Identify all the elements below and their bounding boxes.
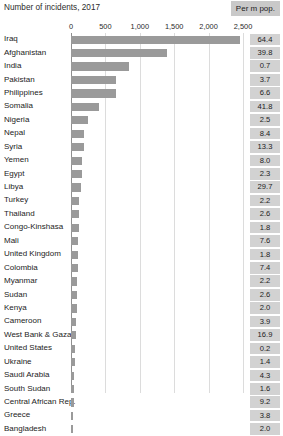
per-million-value: 8.4 [250, 128, 280, 140]
axis-tick-label: 1,000 [131, 22, 150, 31]
bar-track [71, 116, 243, 124]
incidents-bar [71, 197, 79, 205]
bar-track [71, 318, 243, 326]
table-row: Sudan2.6 [0, 288, 283, 301]
bar-track [71, 183, 243, 191]
table-row: Yemen8.0 [0, 154, 283, 167]
incidents-bar [71, 385, 74, 393]
bar-track [71, 143, 243, 151]
table-row: Afghanistan39.8 [0, 46, 283, 59]
bar-track [71, 170, 243, 178]
country-label: India [4, 61, 21, 71]
incidents-bar [71, 358, 75, 366]
per-million-value: 7.4 [250, 262, 280, 274]
incidents-bar [71, 103, 99, 111]
bar-track [71, 62, 243, 70]
table-row: Mali7.6 [0, 235, 283, 248]
bar-track [71, 251, 243, 259]
country-label: Central African Rep. [4, 397, 76, 407]
per-million-value: 0.7 [250, 60, 280, 72]
table-row: West Bank & Gaza16.9 [0, 329, 283, 342]
table-row: United Kingdom1.8 [0, 248, 283, 261]
bar-rows: Iraq64.4Afghanistan39.8India0.7Pakistan3… [0, 33, 283, 436]
axis-tick-label: 500 [99, 22, 111, 31]
axis-tick-label: 1,500 [165, 22, 184, 31]
country-label: Kenya [4, 303, 27, 313]
table-row: Thailand2.6 [0, 208, 283, 221]
incidents-bar [71, 49, 167, 57]
bar-track [71, 304, 243, 312]
table-row: Ukraine1.4 [0, 356, 283, 369]
bar-track [71, 331, 243, 339]
bar-track [71, 89, 243, 97]
country-label: Thailand [4, 209, 35, 219]
per-million-value: 2.0 [250, 302, 280, 314]
country-label: Ukraine [4, 357, 32, 367]
per-million-value: 2.5 [250, 114, 280, 126]
table-row: Philippines6.6 [0, 87, 283, 100]
incidents-bar [71, 412, 73, 420]
bar-track [71, 412, 243, 420]
bar-track [71, 157, 243, 165]
country-label: Yemen [4, 155, 29, 165]
table-row: Libya29.7 [0, 181, 283, 194]
bar-track [71, 398, 243, 406]
bar-track [71, 210, 243, 218]
incidents-bar [71, 224, 79, 232]
per-million-value: 16.9 [250, 329, 280, 341]
country-label: United States [4, 343, 52, 353]
per-million-value: 2.2 [250, 195, 280, 207]
bar-track [71, 385, 243, 393]
table-row: Somalia41.8 [0, 100, 283, 113]
per-million-value: 39.8 [250, 47, 280, 59]
incidents-bar [71, 345, 75, 353]
country-label: Greece [4, 410, 30, 420]
table-row: Colombia7.4 [0, 261, 283, 274]
per-million-value: 1.6 [250, 383, 280, 395]
incidents-bar [71, 62, 129, 70]
per-million-value: 3.7 [250, 74, 280, 86]
incidents-bar [71, 425, 73, 433]
table-row: Greece3.8 [0, 409, 283, 422]
country-label: Nepal [4, 128, 25, 138]
per-million-value: 64.4 [250, 34, 280, 46]
country-label: Iraq [4, 34, 18, 44]
axis-tick-label: 2,000 [199, 22, 218, 31]
incidents-bar [71, 237, 78, 245]
country-label: Nigeria [4, 115, 29, 125]
country-label: Colombia [4, 263, 38, 273]
table-row: Cameroon3.9 [0, 315, 283, 328]
incidents-bar [71, 372, 74, 380]
table-row: Egypt2.3 [0, 167, 283, 180]
table-row: United States0.2 [0, 342, 283, 355]
bar-track [71, 130, 243, 138]
table-row: Nigeria2.5 [0, 114, 283, 127]
per-million-value: 3.8 [250, 410, 280, 422]
table-row: Syria13.3 [0, 141, 283, 154]
table-row: Congo-Kinshasa1.8 [0, 221, 283, 234]
per-million-value: 7.6 [250, 235, 280, 247]
table-row: Iraq64.4 [0, 33, 283, 46]
table-row: Pakistan3.7 [0, 73, 283, 86]
incidents-bar [71, 76, 116, 84]
incidents-bar [71, 170, 82, 178]
country-label: Congo-Kinshasa [4, 222, 63, 232]
country-label: Syria [4, 142, 22, 152]
per-million-value: 2.3 [250, 168, 280, 180]
country-label: Somalia [4, 101, 33, 111]
axis-tick-label: 0 [69, 22, 73, 31]
per-million-value: 29.7 [250, 181, 280, 193]
incidents-bar [71, 318, 76, 326]
per-million-value: 1.8 [250, 249, 280, 261]
per-million-value: 1.8 [250, 222, 280, 234]
per-million-value: 2.6 [250, 289, 280, 301]
incidents-bar [71, 116, 88, 124]
per-million-value: 2.0 [250, 423, 280, 435]
bar-track [71, 277, 243, 285]
per-million-value: 6.6 [250, 87, 280, 99]
bar-track [71, 291, 243, 299]
country-label: Sudan [4, 290, 27, 300]
per-million-value: 3.9 [250, 316, 280, 328]
incidents-bar [71, 36, 240, 44]
country-label: Turkey [4, 195, 28, 205]
